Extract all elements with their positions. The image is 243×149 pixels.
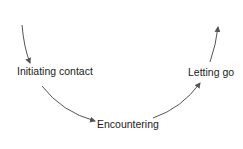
node-initiating-contact: Initiating contact bbox=[17, 65, 93, 77]
arrow-encountering-to-letting-go bbox=[153, 83, 200, 118]
exit-arrow bbox=[210, 27, 218, 62]
entry-arrow bbox=[22, 25, 30, 63]
arrow-initiating-to-encountering bbox=[42, 86, 95, 121]
node-encountering: Encountering bbox=[97, 118, 159, 130]
node-letting-go: Letting go bbox=[188, 66, 234, 78]
